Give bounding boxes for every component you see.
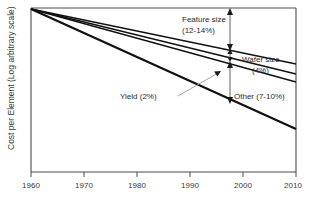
annotation-wafer-size-line1: Wafer size bbox=[242, 55, 280, 64]
annotation-wafer-size-line2: (4%) bbox=[252, 66, 269, 75]
bracket-other bbox=[227, 61, 233, 104]
x-tick-label-2010: 2010 bbox=[284, 181, 302, 190]
chart-container: 1960 1970 1980 1990 2000 2010 Cost per E… bbox=[0, 0, 312, 205]
yield-leader-line bbox=[178, 73, 218, 96]
x-tick-label-1990: 1990 bbox=[181, 181, 199, 190]
annotation-brackets bbox=[227, 8, 233, 104]
x-axis-ticks bbox=[31, 172, 296, 177]
plot-frame bbox=[31, 8, 296, 172]
chart-canvas: 1960 1970 1980 1990 2000 2010 Cost per E… bbox=[0, 0, 312, 205]
yield-leader-arrow-head bbox=[214, 71, 221, 77]
annotation-yield: Yield (2%) bbox=[120, 92, 157, 101]
annotation-feature-size-line2: (12-14%) bbox=[182, 26, 215, 35]
x-tick-label-1970: 1970 bbox=[75, 181, 93, 190]
y-axis-title: Cost per Element (Log arbitrary scale) bbox=[6, 6, 16, 150]
annotation-other: Other (7-10%) bbox=[234, 92, 285, 101]
arrow-head-up-feature-size bbox=[227, 8, 233, 15]
annotation-feature-size-line1: Feature size bbox=[182, 15, 227, 24]
annotation-labels: Feature size (12-14%) Wafer size (4%) Ot… bbox=[120, 15, 285, 101]
x-axis-tick-labels: 1960 1970 1980 1990 2000 2010 bbox=[22, 181, 302, 190]
x-tick-label-1980: 1980 bbox=[128, 181, 146, 190]
bracket-feature-size bbox=[227, 8, 233, 51]
x-tick-label-2000: 2000 bbox=[234, 181, 252, 190]
x-tick-label-1960: 1960 bbox=[22, 181, 40, 190]
data-line-wafer-size bbox=[31, 9, 296, 74]
